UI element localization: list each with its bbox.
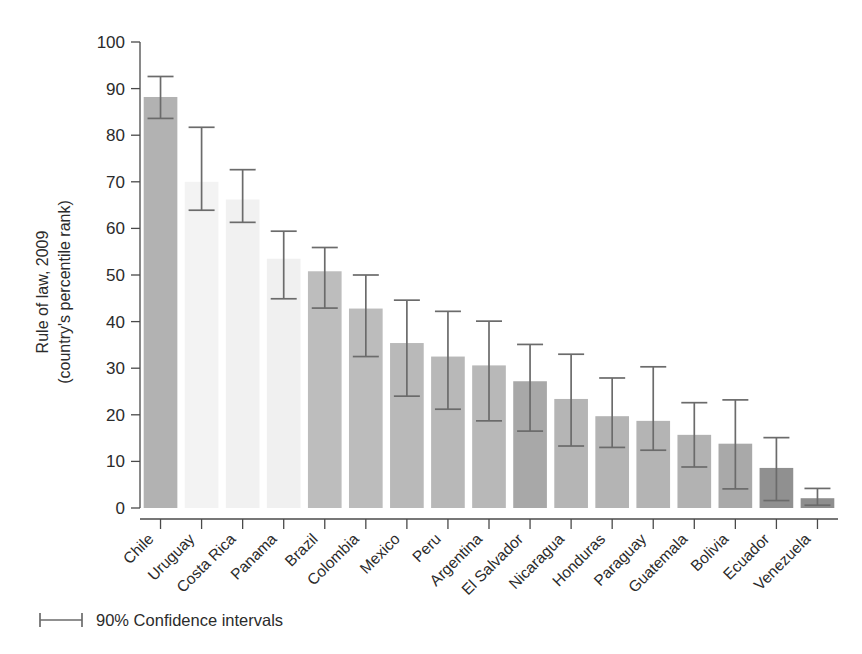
y-axis-ticks: 0102030405060708090100 <box>97 33 140 518</box>
y-axis-title-line2: (country's percentile rank) <box>56 200 73 384</box>
y-tick-label: 60 <box>106 219 125 238</box>
y-tick-label: 10 <box>106 452 125 471</box>
y-axis-title: Rule of law, 2009 (country's percentile … <box>34 200 73 384</box>
bar-uruguay <box>185 182 219 508</box>
x-axis-label-peru: Peru <box>409 530 444 565</box>
x-axis-ticks <box>161 519 818 529</box>
chart-figure: Rule of law, 2009 (country's percentile … <box>0 0 862 654</box>
y-tick-label: 100 <box>97 33 125 52</box>
x-axis-label-chile: Chile <box>120 530 157 567</box>
x-axis-label-panama: Panama <box>227 530 280 583</box>
y-tick-label: 80 <box>106 126 125 145</box>
x-axis-labels: ChileUruguayCosta RicaPanamaBrazilColomb… <box>120 530 814 598</box>
bar-chile <box>144 97 178 508</box>
legend: 90% Confidence intervals <box>40 611 283 629</box>
y-tick-label: 40 <box>106 313 125 332</box>
y-tick-label: 0 <box>116 499 125 518</box>
x-axis-label-mexico: Mexico <box>356 530 403 577</box>
y-tick-label: 90 <box>106 80 125 99</box>
legend-label: 90% Confidence intervals <box>96 611 283 629</box>
bar-costa-rica <box>226 200 260 508</box>
x-axis-label-brazil: Brazil <box>281 530 320 569</box>
bars-group <box>144 97 835 508</box>
y-tick-label: 70 <box>106 173 125 192</box>
y-axis-title-line1: Rule of law, 2009 <box>34 231 51 354</box>
rule-of-law-bar-chart: Rule of law, 2009 (country's percentile … <box>0 0 862 654</box>
y-tick-label: 50 <box>106 266 125 285</box>
y-tick-label: 20 <box>106 406 125 425</box>
y-tick-label: 30 <box>106 359 125 378</box>
